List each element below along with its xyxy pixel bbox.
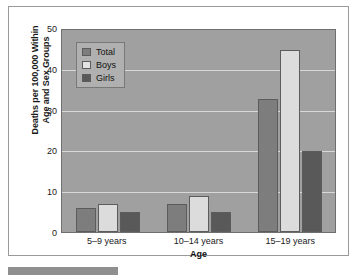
y-tick-0: 0 xyxy=(31,228,57,238)
bar-boys-10-14[interactable] xyxy=(189,196,209,232)
plot-area: Total Boys Girls xyxy=(61,29,336,233)
y-tick-20: 20 xyxy=(31,146,57,156)
bar-girls-10-14[interactable] xyxy=(211,212,231,232)
legend-label-girls: Girls xyxy=(96,73,115,83)
bar-girls-5-9[interactable] xyxy=(120,212,140,232)
x-tick-10-14: 10–14 years xyxy=(153,236,245,246)
y-tick-10: 10 xyxy=(31,187,57,197)
bar-group-10-14 xyxy=(153,30,244,232)
y-tick-50: 50 xyxy=(31,24,57,34)
legend-swatch-girls-icon xyxy=(82,74,91,82)
legend-item-total: Total xyxy=(82,47,116,57)
x-axis-tick-labels: 5–9 years 10–14 years 15–19 years xyxy=(61,236,336,246)
x-tick-5-9: 5–9 years xyxy=(61,236,153,246)
bar-group-15-19 xyxy=(244,30,335,232)
legend-label-total: Total xyxy=(96,47,115,57)
bar-girls-15-19[interactable] xyxy=(302,151,322,232)
x-axis-title: Age xyxy=(61,249,336,259)
bar-total-10-14[interactable] xyxy=(167,204,187,232)
x-tick-15-19: 15–19 years xyxy=(244,236,336,246)
chart-legend: Total Boys Girls xyxy=(76,42,125,88)
bar-boys-5-9[interactable] xyxy=(98,204,118,232)
legend-label-boys: Boys xyxy=(96,60,116,70)
bar-total-5-9[interactable] xyxy=(76,208,96,232)
caption-strip xyxy=(8,267,118,275)
legend-swatch-total-icon xyxy=(82,48,91,56)
figure-frame: Deaths per 100,000 Within Age and Sex Gr… xyxy=(8,6,349,256)
bar-total-15-19[interactable] xyxy=(258,99,278,232)
bar-boys-15-19[interactable] xyxy=(280,50,300,232)
legend-swatch-boys-icon xyxy=(82,61,91,69)
y-tick-30: 30 xyxy=(31,106,57,116)
y-tick-40: 40 xyxy=(31,65,57,75)
legend-item-boys: Boys xyxy=(82,60,116,70)
legend-item-girls: Girls xyxy=(82,73,116,83)
y-axis-tick-labels: 50 40 30 20 10 0 xyxy=(31,29,57,233)
